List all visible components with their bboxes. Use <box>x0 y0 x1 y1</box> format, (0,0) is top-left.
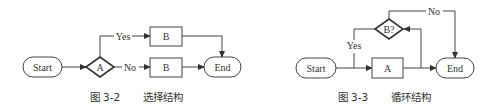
end-label: End <box>447 63 463 74</box>
start-label: Start <box>33 62 52 73</box>
edge-b-yes-to-end <box>182 36 222 57</box>
caption-title: 选择结构 <box>143 91 183 103</box>
process-box-a: A <box>372 58 403 78</box>
decision-diamond-a: A <box>86 57 114 77</box>
decision-label: A <box>96 62 104 73</box>
no-label: No <box>428 6 440 17</box>
edge-yes-upper <box>354 29 375 40</box>
caption-title: 循环结构 <box>391 91 431 103</box>
caption-number: 图 3-3 <box>338 91 369 103</box>
decision-diamond-b: B? <box>375 19 403 39</box>
edge-a-to-decision <box>404 29 421 68</box>
end-terminal: End <box>204 57 241 77</box>
start-label: Start <box>307 63 326 74</box>
start-terminal: Start <box>23 57 62 77</box>
figure-3-2-selection: Start A Yes B No B <box>23 27 241 103</box>
end-terminal: End <box>436 58 474 78</box>
start-terminal: Start <box>296 58 336 78</box>
figure-3-3-loop: Start A B? Yes No End 图 3-3 <box>296 6 474 104</box>
yes-label: Yes <box>347 40 362 51</box>
edge-no-to-end <box>443 11 455 58</box>
decision-label: B? <box>383 24 395 35</box>
process-a-label: A <box>384 63 392 74</box>
no-label: No <box>124 62 136 73</box>
flowcharts: Start A Yes B No B <box>0 0 492 111</box>
edge-no-left <box>389 11 426 19</box>
caption-number: 图 3-2 <box>90 91 121 103</box>
process-b-yes-label: B <box>163 31 170 42</box>
yes-label: Yes <box>116 31 131 42</box>
process-b-no-label: B <box>163 62 170 73</box>
edge-yes-vertical <box>100 36 114 57</box>
end-label: End <box>214 62 230 73</box>
process-box-b-no: B <box>150 58 182 77</box>
process-box-b-yes: B <box>150 27 182 46</box>
